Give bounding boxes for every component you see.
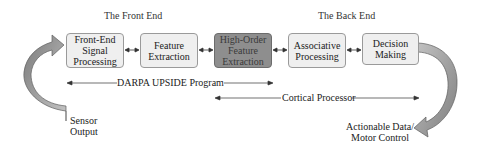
block-label-line: Extraction [148, 51, 190, 62]
sensor-output-line2: Output [70, 126, 98, 137]
actionable-data-line1: Actionable Data/ [346, 121, 414, 132]
darpa-span-label: DARPA UPSIDE Program [117, 77, 224, 88]
sensor-output-line1: Sensor [70, 115, 98, 126]
actionable-data-line2: Motor Control [346, 132, 414, 143]
block-label-line: Processing [294, 51, 341, 62]
block-associative-processing: Associative Processing [288, 33, 346, 68]
block-label-line: Processing [73, 56, 116, 67]
action-output-arrow-icon [414, 43, 457, 137]
actionable-data-label: Actionable Data/ Motor Control [346, 121, 414, 143]
sensor-input-arrow-icon [24, 35, 66, 121]
block-feature-extraction: Feature Extraction [140, 33, 198, 68]
block-front-end-signal-processing: Front-End Signal Processing [66, 33, 124, 68]
block-high-order-feature-extraction: High-Order Feature Extraction [214, 33, 272, 68]
block-label-line: Extraction [220, 56, 267, 67]
block-label-line: High-Order [220, 34, 267, 45]
block-label-line: Decision [373, 38, 409, 49]
block-label-line: Feature [148, 40, 190, 51]
block-label-line: Front-End [73, 34, 116, 45]
block-label-line: Making [373, 49, 409, 60]
block-decision-making: Decision Making [362, 33, 419, 65]
block-label-line: Signal [73, 45, 116, 56]
sensor-output-label: Sensor Output [70, 115, 98, 137]
block-label-line: Associative [294, 40, 341, 51]
block-label-line: Feature [220, 45, 267, 56]
cortical-span-label: Cortical Processor [282, 92, 356, 103]
